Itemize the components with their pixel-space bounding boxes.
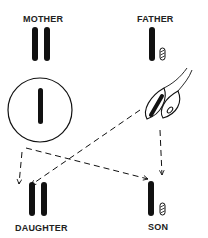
egg-cell bbox=[8, 78, 72, 142]
x-chromosome-icon bbox=[148, 181, 154, 216]
x-chromosome-icon bbox=[149, 27, 155, 61]
inheritance-diagram bbox=[0, 0, 208, 238]
mother-chromosomes bbox=[32, 27, 50, 61]
arrow-egg-to-daughter bbox=[19, 152, 22, 184]
son-chromosomes bbox=[148, 181, 165, 216]
x-chromosome-icon bbox=[44, 27, 50, 61]
arrow-sperm-y-to-son bbox=[160, 130, 162, 175]
arrow-egg-to-son bbox=[26, 148, 148, 179]
x-chromosome-icon bbox=[29, 182, 35, 216]
sperm-tail-icon bbox=[164, 68, 187, 88]
x-chromosome-icon bbox=[38, 88, 43, 124]
x-chromosome-icon bbox=[41, 182, 47, 216]
sperm-y bbox=[161, 70, 192, 118]
sperm-tail-icon bbox=[178, 70, 192, 91]
father-chromosomes bbox=[149, 27, 165, 61]
x-chromosome-icon bbox=[32, 27, 38, 61]
daughter-chromosomes bbox=[29, 182, 47, 216]
